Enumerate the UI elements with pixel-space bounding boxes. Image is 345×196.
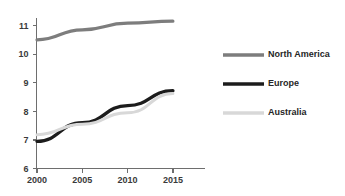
x-tick-label: 2005	[72, 175, 92, 185]
line-chart: 67891011 2000200520102015 North AmericaE…	[0, 0, 345, 196]
y-axis-tick-labels: 67891011	[18, 21, 28, 174]
x-axis-tick-labels: 2000200520102015	[27, 175, 183, 185]
x-tick-label: 2000	[27, 175, 47, 185]
y-tick-label: 9	[23, 78, 28, 88]
y-tick-label: 7	[23, 135, 28, 145]
chart-legend: North AmericaEuropeAustralia	[223, 49, 331, 117]
series-line-north-america	[37, 21, 173, 40]
x-tick-label: 2015	[163, 175, 183, 185]
x-tick-label: 2010	[118, 175, 138, 185]
series-line-europe	[37, 91, 173, 142]
axes-group	[37, 18, 206, 169]
legend-label-europe: Europe	[268, 78, 299, 88]
chart-canvas: 67891011 2000200520102015 North AmericaE…	[0, 0, 345, 196]
y-tick-label: 10	[18, 49, 28, 59]
legend-label-australia: Australia	[268, 107, 308, 117]
legend-label-north-america: North America	[268, 49, 331, 59]
y-tick-label: 11	[19, 21, 29, 31]
y-tick-label: 6	[23, 164, 28, 174]
y-tick-label: 8	[23, 107, 28, 117]
data-series-group	[37, 21, 173, 141]
